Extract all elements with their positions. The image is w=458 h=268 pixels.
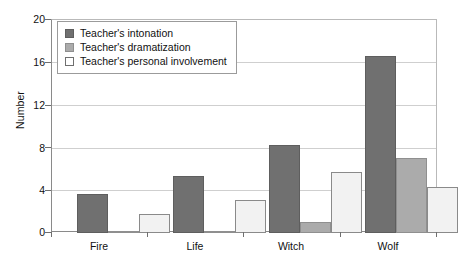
bar-witch-intonation	[269, 145, 300, 233]
x-tick-mark-0	[51, 232, 52, 237]
legend-item-personal-involvement: Teacher's personal involvement	[65, 54, 227, 68]
medium-gray-swatch-icon	[65, 43, 74, 52]
bar-wolf-intonation	[365, 56, 396, 233]
white-swatch-icon	[65, 57, 74, 66]
x-tick-mark-2	[243, 232, 244, 237]
legend-label-dramatization: Teacher's dramatization	[80, 42, 191, 53]
x-tick-mark-1	[147, 232, 148, 237]
x-axis-label-wolf: Wolf	[343, 240, 433, 252]
bar-witch-personal-involvement	[331, 172, 362, 233]
legend-label-personal-involvement: Teacher's personal involvement	[80, 56, 227, 67]
bar-life-dramatization	[204, 231, 235, 233]
y-axis-title: Number	[14, 70, 26, 150]
y-tick-label-4: 4	[15, 185, 45, 195]
legend-item-dramatization: Teacher's dramatization	[65, 40, 227, 54]
bar-witch-dramatization	[300, 222, 331, 233]
chart-legend: Teacher's intonation Teacher's dramatiza…	[57, 21, 237, 74]
x-tick-mark-3	[340, 232, 341, 237]
bar-fire-dramatization	[108, 231, 139, 233]
y-tick-label-12: 12	[15, 100, 45, 110]
x-tick-mark-4	[436, 232, 437, 237]
y-tick-label-20: 20	[15, 14, 45, 24]
bar-fire-personal-involvement	[139, 214, 170, 233]
legend-label-intonation: Teacher's intonation	[80, 28, 173, 39]
bar-fire-intonation	[77, 194, 108, 233]
bar-wolf-personal-involvement	[427, 187, 458, 233]
x-axis-label-fire: Fire	[54, 240, 144, 252]
x-axis-label-life: Life	[150, 240, 240, 252]
bar-life-personal-involvement	[235, 200, 266, 233]
x-axis-label-witch: Witch	[246, 240, 336, 252]
y-tick-label-16: 16	[15, 57, 45, 67]
bar-wolf-dramatization	[396, 158, 427, 233]
y-tick-label-8: 8	[15, 143, 45, 153]
y-tick-label-0: 0	[15, 227, 45, 237]
bar-life-intonation	[173, 176, 204, 234]
legend-item-intonation: Teacher's intonation	[65, 26, 227, 40]
dark-gray-swatch-icon	[65, 29, 74, 38]
